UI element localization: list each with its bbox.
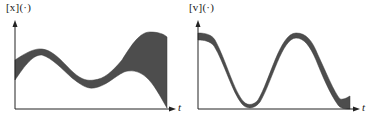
chart-panel-v: [v](·) t xyxy=(184,0,368,122)
y-axis-arrow-icon xyxy=(13,20,18,27)
x-axis-arrow-icon xyxy=(169,107,176,112)
chart-v-plot xyxy=(184,0,368,122)
x-axis-arrow-icon xyxy=(353,107,360,112)
y-axis-arrow-icon xyxy=(196,20,201,27)
chart-panel-x: [x](·) t xyxy=(0,0,184,122)
x-axis-label-t: t xyxy=(178,101,181,113)
interval-band-v xyxy=(198,33,350,109)
x-axis-label-t: t xyxy=(362,101,365,113)
chart-x-plot xyxy=(0,0,184,122)
interval-band-x xyxy=(15,32,167,108)
